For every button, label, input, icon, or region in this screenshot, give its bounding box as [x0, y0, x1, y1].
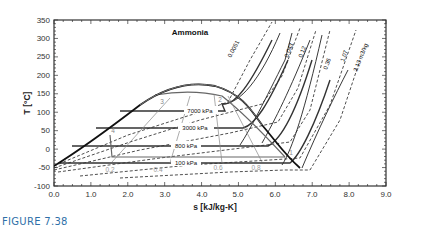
svg-text:6.0: 6.0: [269, 190, 281, 199]
svg-text:0.36: 0.36: [322, 57, 332, 71]
svg-text:3.13 m3/kg: 3.13 m3/kg: [352, 43, 369, 73]
svg-text:800 kPa: 800 kPa: [175, 143, 198, 149]
svg-text:-100: -100: [34, 182, 51, 191]
specific-volume-dashed-lines: [54, 22, 360, 178]
svg-text:4: 4: [111, 127, 115, 134]
svg-text:1: 1: [289, 149, 293, 156]
x-axis-label: s [kJ/kg-K]: [193, 202, 237, 212]
svg-text:5.0: 5.0: [232, 190, 244, 199]
svg-text:8.0: 8.0: [343, 190, 355, 199]
svg-text:2: 2: [218, 96, 222, 103]
svg-text:7000 kPa: 7000 kPa: [187, 108, 213, 114]
svg-text:9.0: 9.0: [380, 190, 392, 199]
svg-text:100: 100: [37, 108, 51, 117]
svg-text:0.8: 0.8: [251, 164, 260, 171]
svg-text:0.6: 0.6: [213, 164, 222, 171]
svg-text:1.07: 1.07: [339, 49, 349, 63]
svg-text:50: 50: [41, 126, 50, 135]
svg-text:0.4: 0.4: [153, 166, 162, 173]
svg-text:100 kPa: 100 kPa: [175, 160, 198, 166]
svg-text:0: 0: [46, 145, 51, 154]
svg-text:350: 350: [37, 16, 51, 25]
svg-text:0.043: 0.043: [283, 42, 294, 59]
svg-text:0.12: 0.12: [297, 45, 307, 59]
y-tick-labels: -100 -50 0 50 100 150 200 250 300 350: [34, 16, 51, 191]
svg-text:4.0: 4.0: [196, 190, 208, 199]
svg-text:0.0051: 0.0051: [227, 39, 241, 59]
svg-text:200: 200: [37, 71, 51, 80]
svg-text:2.0: 2.0: [122, 190, 134, 199]
svg-text:3: 3: [160, 98, 164, 105]
y-axis-ticks: [54, 20, 386, 186]
specific-volume-labels: 0.0051 0.043 0.12 0.36 1.07 3.13 m3/kg: [227, 39, 369, 73]
svg-text:300: 300: [37, 34, 51, 43]
svg-text:150: 150: [37, 89, 51, 98]
svg-text:7.0: 7.0: [306, 190, 318, 199]
saturation-dome-curve: [54, 84, 300, 168]
plot-frame: [54, 20, 386, 186]
svg-text:3.0: 3.0: [159, 190, 171, 199]
figure-caption: FIGURE 7.38: [2, 216, 68, 227]
chart-title: Ammonia: [172, 28, 209, 37]
ts-diagram-chart: 0.0 1.0 2.0 3.0 4.0 5.0 6.0 7.0 8.0 9.0 …: [0, 0, 428, 234]
svg-text:0.2: 0.2: [105, 166, 114, 173]
ts-diagram-figure: 0.0 1.0 2.0 3.0 4.0 5.0 6.0 7.0 8.0 9.0 …: [0, 0, 428, 234]
x-tick-labels: 0.0 1.0 2.0 3.0 4.0 5.0 6.0 7.0 8.0 9.0: [48, 190, 392, 199]
x-axis-ticks: [54, 20, 386, 186]
svg-text:1.0: 1.0: [85, 190, 97, 199]
svg-text:250: 250: [37, 52, 51, 61]
svg-text:3000 kPa: 3000 kPa: [182, 125, 208, 131]
y-axis-label: T [°C]: [22, 91, 32, 114]
svg-text:-50: -50: [38, 163, 50, 172]
svg-text:0.0: 0.0: [48, 190, 60, 199]
